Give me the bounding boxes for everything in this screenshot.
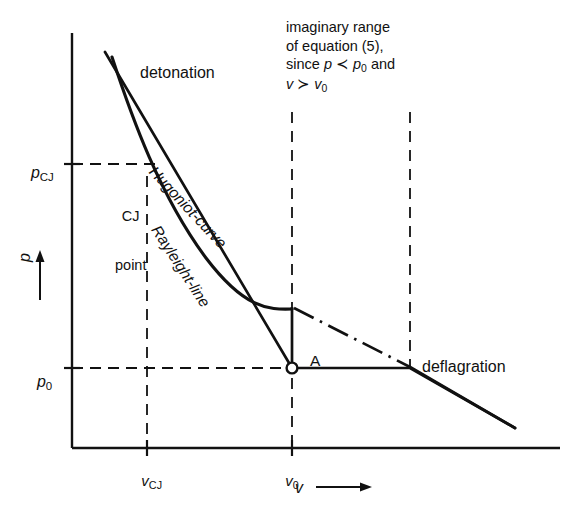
annotation-line-3-p0: p	[353, 56, 361, 72]
annotation-line-4-op: ≻	[293, 76, 314, 92]
y-axis-label: p	[16, 253, 34, 262]
hugoniot-curve-deflagration-branch	[410, 367, 515, 428]
x-tick-label-v-cj: vCJ	[133, 455, 162, 491]
x-tick-label-v-0-symbol: v	[285, 472, 293, 489]
cj-point-label-line1: CJ	[115, 208, 146, 224]
y-tick-label-p-cj-symbol: p	[31, 164, 40, 181]
point-a-label: A	[310, 352, 320, 370]
imaginary-range-annotation: imaginary range of equation (5), since p…	[286, 18, 395, 96]
x-axis-label: v	[295, 479, 303, 497]
cj-point-label-line2: point	[115, 257, 146, 273]
x-axis-arrow-head	[360, 483, 372, 492]
y-tick-label-p-0: p0	[28, 355, 52, 392]
deflagration-label: deflagration	[422, 358, 506, 376]
annotation-line-3-op: ≺	[332, 56, 353, 72]
annotation-line-3-pre: since	[286, 56, 324, 72]
annotation-line-4-v0-subscript: 0	[322, 83, 328, 94]
cj-point-label: CJ point	[115, 176, 146, 290]
annotation-line-3-p: p	[324, 56, 332, 72]
x-tick-label-v-cj-symbol: v	[141, 472, 149, 489]
annotation-line-4: v ≻ v0	[286, 75, 395, 95]
annotation-line-2: of equation (5),	[286, 37, 395, 56]
point-a-marker	[287, 363, 298, 374]
x-tick-label-v-cj-subscript: CJ	[149, 479, 162, 491]
annotation-line-3: since p ≺ p0 and	[286, 55, 395, 75]
y-axis-arrow-head	[36, 250, 45, 262]
y-tick-label-p-cj: pCJ	[22, 146, 54, 183]
annotation-line-1: imaginary range	[286, 18, 395, 37]
y-tick-label-p-0-subscript: 0	[46, 380, 52, 392]
annotation-line-3-post: and	[367, 56, 395, 72]
detonation-label: detonation	[140, 64, 215, 82]
y-tick-label-p-0-symbol: p	[37, 373, 46, 390]
annotation-line-4-v0: v	[314, 76, 321, 92]
deflagration-branch	[292, 368, 515, 428]
y-tick-label-p-cj-subscript: CJ	[40, 171, 54, 183]
